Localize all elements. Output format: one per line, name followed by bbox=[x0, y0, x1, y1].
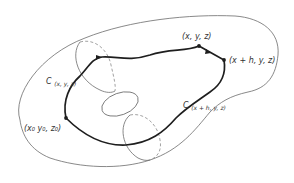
surface-curve-diagram: (x, y, z) (x + h, y, z) (x₀ y₀, z₀) C (x… bbox=[0, 0, 294, 183]
upper-section-solid-arc bbox=[76, 42, 115, 92]
upper-section-dashed-arc bbox=[80, 41, 115, 91]
point-start bbox=[64, 116, 68, 120]
label-curve-c2: C (x + h, y, z) bbox=[183, 101, 226, 112]
point-xyz bbox=[197, 44, 201, 48]
label-curve-c1-sub: (x, y, z) bbox=[54, 80, 76, 88]
lower-section-solid-arc bbox=[123, 115, 150, 160]
label-curve-c1-main: C bbox=[46, 77, 52, 86]
label-curve-c2-main: C bbox=[183, 101, 189, 110]
label-curve-c2-sub: (x + h, y, z) bbox=[191, 104, 226, 112]
label-start-point: (x₀ y₀, z₀) bbox=[24, 124, 61, 133]
lower-section-dashed-arc bbox=[130, 115, 161, 160]
label-point-xyz: (x, y, z) bbox=[182, 32, 211, 41]
closed-path-curve bbox=[65, 46, 225, 145]
outer-surface-outline bbox=[19, 16, 279, 167]
label-point-xhyz: (x + h, y, z) bbox=[229, 56, 275, 65]
point-xhyz bbox=[222, 58, 226, 62]
label-curve-c1: C (x, y, z) bbox=[46, 77, 76, 88]
